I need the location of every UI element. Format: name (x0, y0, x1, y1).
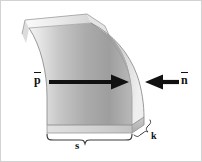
span-brace (47, 134, 132, 144)
normal-arrow (145, 75, 179, 90)
normal-symbol: n (181, 74, 188, 86)
shell-front-surface (29, 23, 132, 125)
span-symbol: s (75, 140, 79, 151)
pressure-symbol: p (34, 74, 41, 86)
pressure-label: p (34, 72, 41, 86)
span-dimension-label: s (75, 140, 79, 151)
normal-vector-label: n (181, 72, 188, 86)
thickness-dimension-label: k (151, 131, 157, 141)
figure-container: p n s k (0, 0, 202, 162)
shell-diagram-svg (1, 1, 202, 162)
thickness-symbol: k (151, 131, 157, 141)
